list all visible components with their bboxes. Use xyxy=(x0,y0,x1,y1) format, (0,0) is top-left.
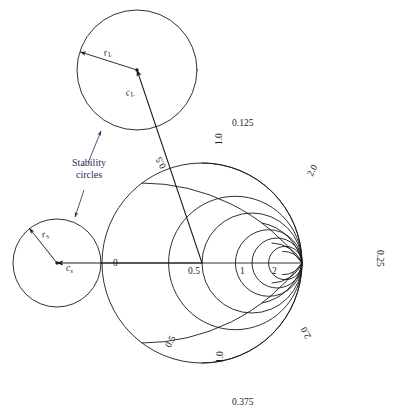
axis-label-1: 1 xyxy=(240,267,245,277)
stability-circles-caption: Stability circles xyxy=(55,157,123,180)
annotation-leader-lower xyxy=(75,190,84,217)
stability-caption-line1: Stability xyxy=(55,157,123,169)
axis-label-0: 0 xyxy=(113,259,118,269)
axis-label-0p5: 0.5 xyxy=(188,267,200,277)
rim-reactance-1-upper: 1.0 xyxy=(215,133,225,145)
rim-label-0p125: 0.125 xyxy=(232,119,253,129)
load-center-vector xyxy=(137,70,202,263)
axis-label-2: 2 xyxy=(272,267,277,277)
stability-caption-line2: circles xyxy=(55,169,123,181)
smith-chart-figure: Stability circles rL cL rs cs 0 0.5 1 2 … xyxy=(0,0,404,417)
load-center-dot xyxy=(135,68,138,71)
rim-reactance-1-lower: 1.0 xyxy=(216,351,226,363)
source-center-label: cs xyxy=(66,264,73,275)
smith-chart-drawing xyxy=(0,0,404,417)
source-center-subscript: s xyxy=(70,267,73,275)
rim-label-0p375: 0.375 xyxy=(232,398,253,408)
source-center-dot xyxy=(55,261,58,264)
rim-label-0p25: 0.25 xyxy=(375,250,385,267)
